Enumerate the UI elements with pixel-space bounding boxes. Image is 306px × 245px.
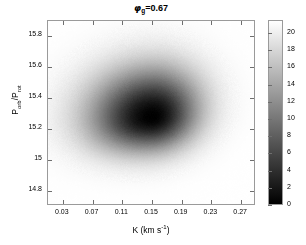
colorbar-tick-label: 14 xyxy=(287,80,295,87)
x-tick-label: 0.27 xyxy=(225,208,255,215)
y-tick xyxy=(48,36,52,37)
colorbar-tick xyxy=(268,136,272,137)
y-tick-right xyxy=(250,160,254,161)
y-axis-label-sub1: orb xyxy=(16,100,22,109)
y-tick xyxy=(48,67,52,68)
x-tick xyxy=(122,200,123,204)
colorbar-tick-label: 4 xyxy=(287,166,291,173)
y-tick-right xyxy=(250,67,254,68)
x-tick xyxy=(211,200,212,204)
x-tick-top xyxy=(241,21,242,25)
colorbar-tick-label: 12 xyxy=(287,97,295,104)
colorbar-tick xyxy=(268,119,272,120)
x-tick-label: 0.03 xyxy=(47,208,77,215)
colorbar-tick-label: 0 xyxy=(287,200,291,207)
y-tick-right xyxy=(250,98,254,99)
title-value: =0.67 xyxy=(145,3,168,13)
y-axis-label-sub2: rot xyxy=(16,85,22,92)
density-heatmap xyxy=(48,21,254,204)
x-axis-label-main: K (km s xyxy=(133,225,162,235)
colorbar-tick xyxy=(268,67,272,68)
colorbar-tick xyxy=(268,153,272,154)
y-tick xyxy=(48,129,52,130)
x-tick xyxy=(182,200,183,204)
colorbar-tick xyxy=(268,205,272,206)
x-tick-top xyxy=(152,21,153,25)
x-tick-top xyxy=(122,21,123,25)
figure-canvas: φg=0.67 0.030.070.110.150.190.230.27 14.… xyxy=(0,0,306,245)
y-axis-label: Porb/Prot xyxy=(10,40,22,160)
y-tick-label: 14.8 xyxy=(8,185,42,192)
page-title: φg=0.67 xyxy=(47,3,255,16)
x-tick-label: 0.11 xyxy=(106,208,136,215)
colorbar-tick-label: 10 xyxy=(287,114,295,121)
x-tick-label: 0.23 xyxy=(195,208,225,215)
y-axis-label-p1: P xyxy=(10,109,20,115)
x-tick-top xyxy=(63,21,64,25)
x-axis-label-close: ) xyxy=(167,225,170,235)
colorbar xyxy=(268,20,283,205)
y-tick-right xyxy=(250,129,254,130)
colorbar-tick-label: 16 xyxy=(287,62,295,69)
x-tick-top xyxy=(182,21,183,25)
colorbar-tick-label: 20 xyxy=(287,28,295,35)
colorbar-tick-label: 6 xyxy=(287,148,291,155)
y-axis-label-slash: /P xyxy=(10,92,20,100)
y-tick-right xyxy=(250,36,254,37)
y-tick xyxy=(48,191,52,192)
y-tick xyxy=(48,160,52,161)
x-tick xyxy=(241,200,242,204)
plot-axes xyxy=(47,20,255,205)
x-tick-top xyxy=(211,21,212,25)
colorbar-tick xyxy=(268,171,272,172)
colorbar-tick-label: 18 xyxy=(287,45,295,52)
x-tick xyxy=(93,200,94,204)
x-tick-label: 0.19 xyxy=(166,208,196,215)
x-tick xyxy=(152,200,153,204)
y-tick-label: 15.8 xyxy=(8,30,42,37)
y-tick xyxy=(48,98,52,99)
colorbar-tick xyxy=(268,50,272,51)
colorbar-tick xyxy=(268,102,272,103)
x-tick xyxy=(63,200,64,204)
y-tick-right xyxy=(250,191,254,192)
x-axis-label: K (km s-1) xyxy=(47,224,255,235)
x-tick-label: 0.15 xyxy=(136,208,166,215)
colorbar-tick-label: 8 xyxy=(287,131,291,138)
colorbar-tick xyxy=(268,33,272,34)
colorbar-tick xyxy=(268,85,272,86)
colorbar-tick xyxy=(268,188,272,189)
x-tick-top xyxy=(93,21,94,25)
x-tick-label: 0.07 xyxy=(77,208,107,215)
colorbar-tick-label: 2 xyxy=(287,183,291,190)
